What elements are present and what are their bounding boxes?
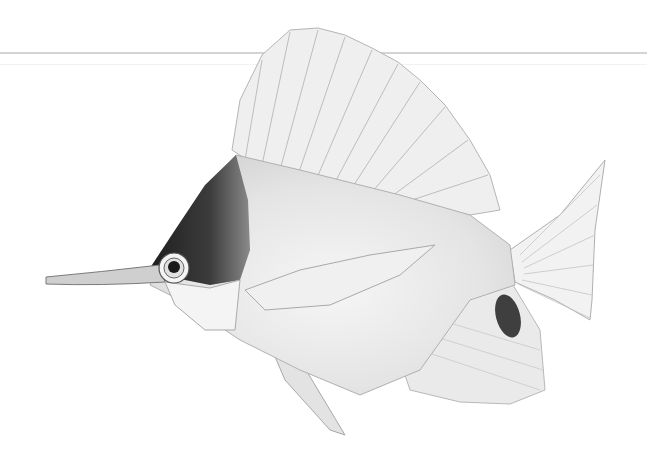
fish-illustration xyxy=(0,0,647,467)
fish-drawing xyxy=(0,0,647,467)
caudal-fin xyxy=(510,160,605,320)
cheek xyxy=(165,280,240,330)
snout xyxy=(46,265,165,285)
eye xyxy=(159,253,189,283)
